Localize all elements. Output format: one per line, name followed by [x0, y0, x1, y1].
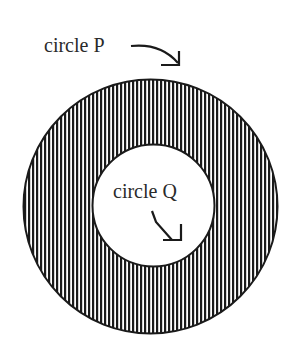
concentric-circles-diagram: circle P circle Q — [0, 0, 296, 364]
circle-q-label: circle Q — [113, 180, 177, 202]
circle-p-arrow-icon — [131, 46, 179, 65]
circle-p-label: circle P — [44, 34, 105, 56]
circle-q-inner — [93, 145, 215, 267]
